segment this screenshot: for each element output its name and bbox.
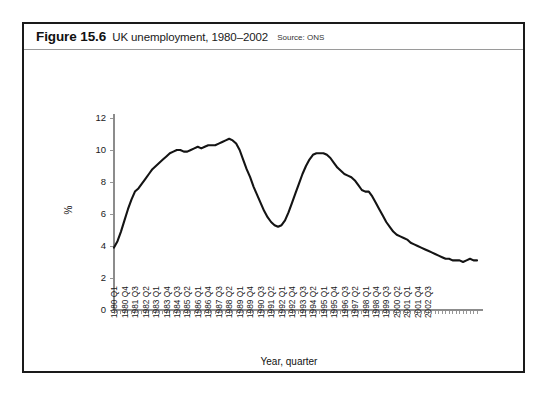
x-axis: 1980 Q11980 Q41981 Q31982 Q21983 Q11983 … <box>109 286 483 318</box>
x-tick-label: 1999 Q3 <box>381 286 391 318</box>
y-tick-label: 0 <box>101 304 106 315</box>
x-tick-label: 1996 Q3 <box>340 286 350 318</box>
x-tick-label: 1998 Q4 <box>371 286 381 318</box>
data-series-unemployment <box>114 139 477 262</box>
x-tick-label: 1998 Q1 <box>361 286 371 318</box>
x-tick-label: 1995 Q4 <box>329 286 339 318</box>
x-tick-label: 1986 Q1 <box>193 286 203 318</box>
x-tick-label: 1980 Q1 <box>109 286 119 318</box>
x-tick-label: 1992 Q1 <box>277 286 287 318</box>
x-tick-label: 1987 Q3 <box>214 286 224 318</box>
x-tick-label: 1988 Q2 <box>224 286 234 318</box>
y-tick-label: 2 <box>101 272 106 283</box>
x-tick-label: 2000 Q2 <box>392 286 402 318</box>
y-tick-label: 4 <box>101 240 106 251</box>
y-axis: 024681012 <box>95 112 114 315</box>
x-tick-label: 1991 Q2 <box>266 286 276 318</box>
plot-region: 024681012 1980 Q11980 Q41981 Q31982 Q219… <box>24 50 523 371</box>
figure-frame: Figure 15.6 UK unemployment, 1980–2002 S… <box>22 22 525 373</box>
figure-title: UK unemployment, 1980–2002 <box>112 31 268 43</box>
x-tick-label: 2001 Q1 <box>402 286 412 318</box>
x-tick-label: 1983 Q4 <box>162 286 172 318</box>
x-tick-label: 1980 Q4 <box>120 286 130 318</box>
x-tick-label: 2001 Q4 <box>413 286 423 318</box>
x-tick-label: 1993 Q3 <box>298 286 308 318</box>
y-tick-label: 8 <box>101 176 106 187</box>
x-tick-label: 1990 Q3 <box>256 286 266 318</box>
x-tick-label: 1997 Q2 <box>350 286 360 318</box>
x-tick-label: 1982 Q2 <box>141 286 151 318</box>
x-tick-label: 1983 Q1 <box>151 286 161 318</box>
y-tick-label: 6 <box>101 208 106 219</box>
figure-number: Figure 15.6 <box>36 29 106 44</box>
unemployment-series-line <box>114 139 477 262</box>
unemployment-line-chart: 024681012 1980 Q11980 Q41981 Q31982 Q219… <box>24 50 523 373</box>
x-tick-label: 1992 Q4 <box>287 286 297 318</box>
x-tick-label: 1989 Q1 <box>235 286 245 318</box>
x-tick-label: 2002 Q3 <box>423 286 433 318</box>
y-axis-title: % <box>63 205 74 214</box>
figure-source: Source: ONS <box>277 33 324 42</box>
x-tick-label: 1989 Q4 <box>245 286 255 318</box>
x-tick-label: 1995 Q1 <box>319 286 329 318</box>
y-tick-label: 12 <box>95 112 106 123</box>
y-tick-label: 10 <box>95 144 106 155</box>
figure-header: Figure 15.6 UK unemployment, 1980–2002 S… <box>24 24 523 50</box>
x-axis-title: Year, quarter <box>261 356 319 367</box>
x-tick-label: 1981 Q3 <box>130 286 140 318</box>
x-tick-label: 1984 Q3 <box>172 286 182 318</box>
x-tick-label: 1985 Q2 <box>182 286 192 318</box>
x-tick-label: 1986 Q4 <box>203 286 213 318</box>
x-tick-label: 1994 Q2 <box>308 286 318 318</box>
